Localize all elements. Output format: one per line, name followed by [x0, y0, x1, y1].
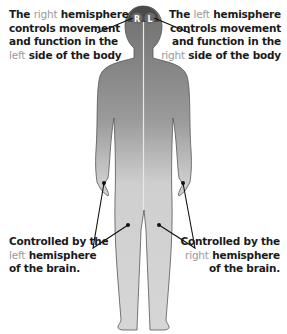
annotation-bottom-left: Controlled by the left hemisphere of the… — [9, 235, 109, 276]
annotation-top-right: The left hemisphere controls movement an… — [161, 8, 281, 62]
head-label-r: R — [134, 15, 140, 24]
annotation-bottom-right: Controlled by the right hemisphere of th… — [180, 235, 280, 276]
annotation-top-left: The right hemisphere controls movement a… — [9, 8, 129, 62]
head-label-l: L — [147, 15, 152, 24]
